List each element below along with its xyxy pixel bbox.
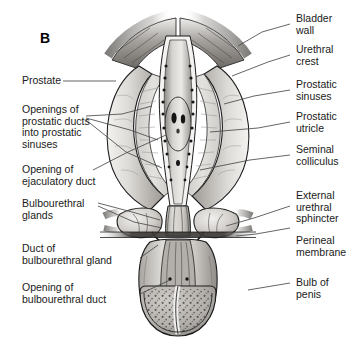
panel-letter: B bbox=[40, 30, 50, 46]
label-bulb-of-penis: Bulb of penis bbox=[296, 277, 329, 300]
bulbourethral-gland-right bbox=[192, 208, 252, 244]
label-opening-ejaculatory-duct: Opening of ejaculatory duct bbox=[22, 164, 96, 187]
membranous-urethra-sphincter bbox=[166, 206, 191, 236]
label-openings-prostatic-ducts: Openings of prostatic ducts into prostat… bbox=[22, 104, 90, 150]
label-prostatic-sinuses: Prostatic sinuses bbox=[296, 79, 337, 102]
label-opening-bulbourethral-duct: Opening of bulbourethral duct bbox=[22, 282, 106, 305]
label-external-urethral-sphincter: External urethral sphincter bbox=[296, 190, 339, 225]
label-bladder-wall: Bladder wall bbox=[296, 13, 332, 36]
label-prostate: Prostate bbox=[22, 75, 61, 87]
perineal-membrane bbox=[96, 232, 260, 238]
label-bulbourethral-glands: Bulbourethral glands bbox=[22, 198, 84, 221]
label-prostatic-utricle: Prostatic utricle bbox=[296, 111, 337, 134]
label-perineal-membrane: Perineal membrane bbox=[296, 235, 346, 258]
bulb-of-penis bbox=[140, 286, 216, 336]
label-seminal-colliculus: Seminal colliculus bbox=[296, 144, 339, 167]
label-duct-bulbourethral-gland: Duct of bulbourethral gland bbox=[22, 243, 112, 266]
anatomy-figure: B Prostate Openings of prostatic ducts i… bbox=[0, 0, 356, 349]
bulbourethral-gland-left bbox=[104, 208, 164, 244]
label-urethral-crest: Urethral crest bbox=[296, 44, 333, 67]
